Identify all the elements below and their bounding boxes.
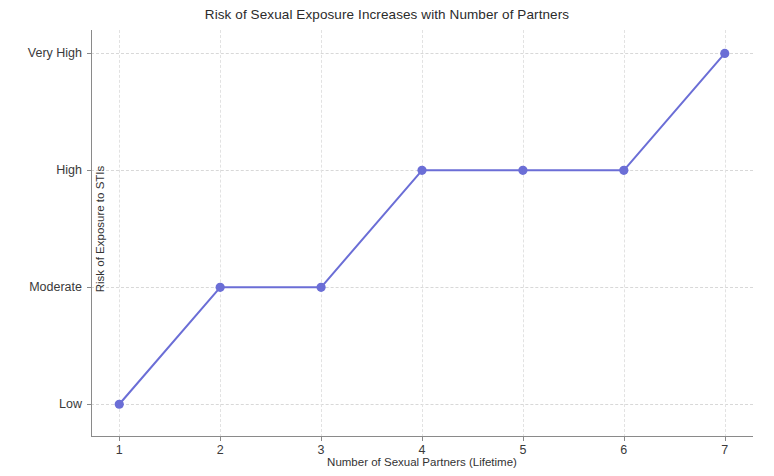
x-tick-mark xyxy=(321,437,322,441)
page-title: Risk of Sexual Exposure Increases with N… xyxy=(0,7,774,22)
x-tick-mark xyxy=(119,437,120,441)
x-tick-mark xyxy=(220,437,221,441)
data-point xyxy=(316,283,325,292)
series-line xyxy=(119,53,724,404)
y-tick-label: High xyxy=(56,163,82,177)
x-tick-label: 7 xyxy=(721,443,728,457)
x-tick-label: 5 xyxy=(519,443,526,457)
x-tick-mark xyxy=(725,437,726,441)
data-series xyxy=(91,30,753,437)
y-axis-label: Risk of Exposure to STIs xyxy=(94,166,106,293)
data-point xyxy=(216,283,225,292)
data-point xyxy=(720,49,729,58)
x-tick-mark xyxy=(523,437,524,441)
x-tick-label: 6 xyxy=(620,443,627,457)
y-tick-label: Low xyxy=(59,397,82,411)
series-markers xyxy=(115,49,730,409)
data-point xyxy=(417,166,426,175)
data-point xyxy=(115,400,124,409)
plot-area: LowModerateHighVery High 1234567 Risk of… xyxy=(91,30,753,437)
x-tick-label: 1 xyxy=(116,443,123,457)
y-tick-label: Moderate xyxy=(29,280,82,294)
x-tick-mark xyxy=(422,437,423,441)
chart-figure: Risk of Sexual Exposure Increases with N… xyxy=(0,0,774,476)
x-tick-mark xyxy=(624,437,625,441)
data-point xyxy=(619,166,628,175)
x-tick-label: 3 xyxy=(318,443,325,457)
data-point xyxy=(518,166,527,175)
x-tick-label: 2 xyxy=(217,443,224,457)
x-axis-label: Number of Sexual Partners (Lifetime) xyxy=(91,456,753,468)
x-tick-label: 4 xyxy=(419,443,426,457)
y-tick-label: Very High xyxy=(28,46,82,60)
